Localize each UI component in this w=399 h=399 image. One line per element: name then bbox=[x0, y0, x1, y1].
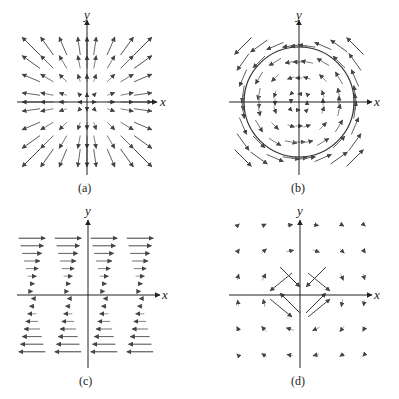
field-arrow bbox=[340, 224, 344, 226]
field-arrow bbox=[251, 152, 268, 164]
field-arrow bbox=[280, 267, 300, 287]
field-arrow bbox=[59, 56, 67, 69]
panel-b-x-label: x bbox=[373, 94, 380, 109]
field-arrow bbox=[41, 109, 54, 112]
field-arrow bbox=[315, 154, 332, 161]
field-arrow bbox=[262, 354, 267, 357]
field-arrow bbox=[271, 74, 278, 81]
panel-b-caption: (b) bbox=[291, 181, 305, 195]
field-arrow bbox=[59, 122, 67, 130]
field-arrow bbox=[306, 93, 308, 95]
field-arrow bbox=[364, 300, 365, 306]
field-arrow bbox=[41, 136, 54, 149]
field-arrow bbox=[313, 250, 320, 253]
field-arrow bbox=[237, 224, 240, 226]
panel-a bbox=[17, 20, 157, 175]
field-arrow bbox=[261, 249, 266, 253]
field-arrow bbox=[335, 72, 342, 84]
field-arrow bbox=[107, 37, 115, 55]
field-arrow bbox=[78, 37, 81, 55]
field-arrow bbox=[41, 74, 54, 82]
field-arrow bbox=[313, 327, 320, 330]
field-arrow bbox=[306, 267, 326, 287]
field-arrow bbox=[235, 150, 252, 167]
field-arrow bbox=[340, 249, 345, 253]
field-arrow bbox=[121, 37, 134, 55]
field-arrow bbox=[262, 326, 267, 331]
field-arrow bbox=[94, 37, 97, 55]
field-arrow bbox=[237, 327, 240, 332]
field-arrow bbox=[239, 70, 246, 87]
field-arrow bbox=[94, 136, 97, 149]
field-arrow bbox=[313, 354, 319, 356]
field-arrow bbox=[134, 56, 152, 69]
panel-a-x-label: x bbox=[159, 94, 166, 109]
field-arrow bbox=[267, 42, 284, 49]
field-arrow bbox=[340, 326, 344, 331]
field-arrow bbox=[22, 122, 40, 130]
field-arrow bbox=[94, 149, 97, 167]
field-arrow bbox=[317, 138, 329, 145]
field-arrow bbox=[134, 122, 152, 130]
field-arrow bbox=[286, 250, 293, 252]
field-arrow bbox=[78, 149, 81, 167]
field-arrow bbox=[347, 150, 364, 167]
field-arrow bbox=[238, 300, 239, 306]
field-arrow bbox=[333, 56, 345, 68]
field-arrow bbox=[107, 122, 115, 130]
field-arrow bbox=[78, 122, 81, 130]
field-arrow bbox=[349, 54, 361, 71]
field-arrow bbox=[255, 72, 262, 84]
field-arrow bbox=[317, 58, 329, 65]
panel-a-y-label: y bbox=[82, 7, 90, 22]
field-arrow bbox=[78, 109, 81, 112]
field-arrow bbox=[331, 40, 348, 52]
field-arrow bbox=[331, 152, 348, 164]
field-arrow bbox=[319, 74, 326, 81]
field-arrow bbox=[237, 274, 239, 280]
field-arrow bbox=[121, 74, 134, 82]
field-arrow bbox=[94, 122, 97, 130]
field-arrow bbox=[107, 56, 115, 69]
field-arrow bbox=[121, 93, 134, 96]
field-arrow bbox=[41, 149, 54, 167]
field-arrow bbox=[22, 74, 40, 82]
field-arrow bbox=[267, 154, 284, 161]
field-arrow bbox=[94, 109, 97, 112]
field-arrow bbox=[349, 134, 361, 151]
field-arrow bbox=[78, 93, 81, 96]
field-arrow bbox=[290, 93, 292, 95]
field-arrow bbox=[94, 74, 97, 82]
panel-d-x-label: x bbox=[373, 287, 380, 302]
field-arrow bbox=[41, 93, 54, 96]
field-arrow bbox=[22, 136, 40, 149]
panel-d-caption: (d) bbox=[291, 374, 305, 388]
field-arrow bbox=[262, 274, 265, 281]
field-arrow bbox=[134, 136, 152, 149]
field-arrow bbox=[270, 273, 292, 291]
field-arrow bbox=[313, 224, 318, 225]
field-arrow bbox=[319, 122, 326, 129]
field-arrow bbox=[351, 118, 358, 135]
field-arrow bbox=[59, 93, 67, 96]
field-arrow bbox=[237, 54, 249, 71]
field-arrow bbox=[59, 109, 67, 112]
panel-c bbox=[17, 220, 160, 368]
field-arrow bbox=[363, 224, 366, 227]
field-arrow bbox=[121, 56, 134, 69]
field-arrow bbox=[237, 134, 249, 151]
field-arrow bbox=[269, 58, 281, 65]
panel-c-x-label: x bbox=[161, 287, 168, 302]
panel-c-caption: (c) bbox=[79, 374, 92, 388]
field-arrow bbox=[121, 122, 134, 130]
field-arrow bbox=[59, 74, 67, 82]
field-arrow bbox=[287, 354, 293, 355]
field-arrow bbox=[41, 56, 54, 69]
field-arrow bbox=[107, 136, 115, 149]
field-arrow bbox=[363, 327, 366, 332]
panel-d bbox=[229, 220, 372, 368]
field-arrow bbox=[22, 149, 40, 167]
field-arrow bbox=[303, 125, 310, 127]
field-arrow bbox=[287, 77, 294, 79]
field-arrow bbox=[253, 136, 265, 148]
